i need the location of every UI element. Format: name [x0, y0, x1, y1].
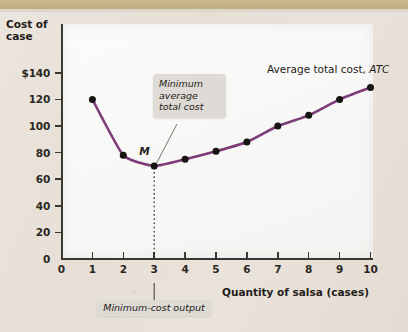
- data-point-x7: [274, 123, 281, 130]
- callout-line-2: average: [159, 90, 221, 102]
- data-point-x10: [367, 84, 374, 91]
- data-point-x6: [243, 138, 250, 145]
- data-point-x3: [151, 162, 158, 169]
- data-point-x2: [120, 152, 127, 159]
- atc-label-plain: Average total cost,: [267, 63, 369, 75]
- callout-line-3: total cost: [159, 101, 221, 113]
- minimum-average-total-cost-callout: Minimum average total cost: [153, 74, 226, 118]
- atc-curve: [92, 87, 370, 165]
- data-point-x9: [336, 96, 343, 103]
- chart-svg: [0, 0, 408, 332]
- callout-line-1: Minimum: [159, 78, 221, 90]
- data-point-markers: [89, 84, 374, 169]
- data-point-x1: [89, 96, 96, 103]
- atc-label-italic: ATC: [369, 63, 389, 75]
- atc-curve-label: Average total cost, ATC: [267, 63, 389, 75]
- callout-leader-line: [156, 124, 177, 164]
- minimum-cost-output-label: Minimum-cost output: [97, 300, 211, 316]
- minimum-point-label: M: [139, 145, 149, 157]
- data-point-x4: [182, 156, 189, 163]
- data-point-x8: [305, 112, 312, 119]
- data-point-x5: [213, 148, 220, 155]
